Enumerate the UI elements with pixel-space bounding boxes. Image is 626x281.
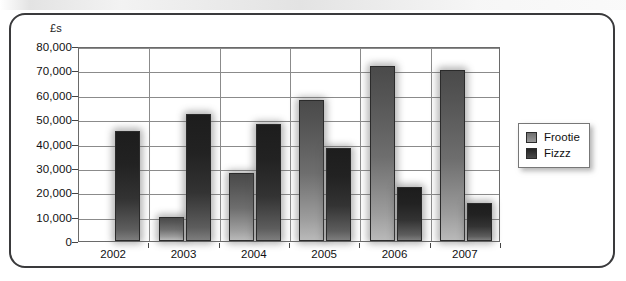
y-axis-tick-label: 80,000 [12, 41, 72, 53]
bar-frootie-2005 [299, 100, 324, 241]
y-axis-tick-mark [72, 71, 78, 72]
y-axis: 010,00020,00030,00040,00050,00060,00070,… [0, 0, 72, 281]
y-axis-tick-mark [72, 218, 78, 219]
gridline-vertical [149, 48, 150, 241]
y-axis-tick-mark [72, 169, 78, 170]
gridline-vertical [220, 48, 221, 241]
gridline-vertical [431, 48, 432, 241]
plot-area [78, 47, 500, 242]
y-axis-tick-mark [72, 96, 78, 97]
bar-fizzz-2005 [326, 148, 351, 241]
bar-frootie-2007 [440, 70, 465, 241]
y-axis-tick-label: 50,000 [12, 114, 72, 126]
legend-item-fizzz: Fizzz [526, 145, 580, 161]
y-axis-tick-label: 30,000 [12, 163, 72, 175]
y-axis-tick-label: 70,000 [12, 65, 72, 77]
legend-item-frootie: Frootie [526, 129, 580, 145]
gridline-horizontal [79, 97, 499, 98]
x-axis-tick-label: 2004 [219, 248, 289, 260]
y-axis-tick-label: 10,000 [12, 212, 72, 224]
bar-frootie-2003 [159, 217, 184, 241]
y-axis-tick-mark [72, 120, 78, 121]
gridline-horizontal [79, 219, 499, 220]
bar-fizzz-2007 [467, 203, 492, 241]
bar-fizzz-2003 [186, 114, 211, 241]
light-grey-swatch-icon [526, 132, 537, 143]
y-axis-tick-label: 40,000 [12, 139, 72, 151]
bar-fizzz-2002 [115, 131, 140, 241]
bar-fizzz-2006 [397, 187, 422, 241]
gridline-horizontal [79, 170, 499, 171]
y-axis-tick-mark [72, 47, 78, 48]
gridline-vertical [360, 48, 361, 241]
bar-frootie-2006 [370, 66, 395, 242]
gridline-horizontal [79, 194, 499, 195]
dark-grey-swatch-icon [526, 148, 537, 159]
bar-fizzz-2004 [256, 124, 281, 241]
legend-item-label: Fizzz [544, 147, 571, 159]
y-axis-tick-label: 60,000 [12, 90, 72, 102]
y-axis-tick-mark [72, 145, 78, 146]
y-axis-tick-label: 0 [12, 236, 72, 248]
gridline-horizontal [79, 72, 499, 73]
x-axis-tick-label: 2007 [430, 248, 500, 260]
bar-chart: £s 010,00020,00030,00040,00050,00060,000… [0, 0, 626, 281]
y-axis-tick-mark [72, 193, 78, 194]
y-axis-tick-mark [72, 242, 78, 243]
gridline-horizontal [79, 146, 499, 147]
bar-frootie-2004 [229, 173, 254, 241]
legend-item-label: Frootie [544, 131, 580, 143]
chart-legend: FrootieFizzz [518, 123, 590, 168]
x-axis-tick-label: 2005 [289, 248, 359, 260]
gridline-horizontal [79, 121, 499, 122]
y-axis-tick-label: 20,000 [12, 187, 72, 199]
x-axis-tick-label: 2006 [360, 248, 430, 260]
x-axis-tick-mark [500, 243, 501, 248]
x-axis-tick-label: 2003 [149, 248, 219, 260]
gridline-horizontal [79, 48, 499, 49]
x-axis-tick-label: 2002 [78, 248, 148, 260]
gridline-vertical [290, 48, 291, 241]
